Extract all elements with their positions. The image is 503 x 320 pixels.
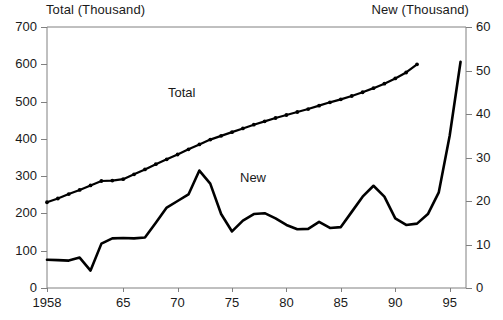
y-axis-right-tick-label: 60 bbox=[476, 19, 490, 34]
y-axis-left-tick-label: 300 bbox=[0, 168, 37, 183]
plot-area bbox=[0, 0, 503, 320]
y-axis-left-tick-label: 0 bbox=[0, 280, 37, 295]
y-axis-left-tick-label: 600 bbox=[0, 56, 37, 71]
x-axis-tick-label: 70 bbox=[148, 295, 208, 310]
y-axis-left-tick-label: 700 bbox=[0, 19, 37, 34]
x-axis-tick-label: 80 bbox=[256, 295, 316, 310]
series-total-markers bbox=[45, 62, 419, 204]
x-axis-tick-label: 75 bbox=[202, 295, 262, 310]
chart-container: Total (Thousand) New (Thousand) 01002003… bbox=[0, 0, 503, 320]
axis-frame bbox=[47, 27, 466, 288]
y-axis-right-tick-label: 50 bbox=[476, 63, 490, 78]
y-axis-right-tick-label: 30 bbox=[476, 150, 490, 165]
y-axis-right-tick-label: 10 bbox=[476, 237, 490, 252]
x-axis-tick-label: 95 bbox=[420, 295, 480, 310]
y-axis-right-tick-label: 0 bbox=[476, 280, 483, 295]
x-axis-tick-label: 65 bbox=[93, 295, 153, 310]
y-axis-left-tick-label: 200 bbox=[0, 205, 37, 220]
x-axis-tick-label: 1958 bbox=[17, 295, 77, 310]
x-axis-tick-label: 90 bbox=[365, 295, 425, 310]
tick-marks bbox=[41, 28, 472, 293]
y-axis-left-tick-label: 400 bbox=[0, 131, 37, 146]
series-annotation-total: Total bbox=[168, 85, 195, 100]
series-new-line bbox=[47, 62, 461, 271]
y-axis-right-tick-label: 40 bbox=[476, 106, 490, 121]
x-axis-tick-label: 85 bbox=[311, 295, 371, 310]
y-axis-right-tick-label: 20 bbox=[476, 193, 490, 208]
y-axis-left-tick-label: 500 bbox=[0, 94, 37, 109]
y-axis-left-tick-label: 100 bbox=[0, 243, 37, 258]
series-annotation-new: New bbox=[240, 170, 266, 185]
